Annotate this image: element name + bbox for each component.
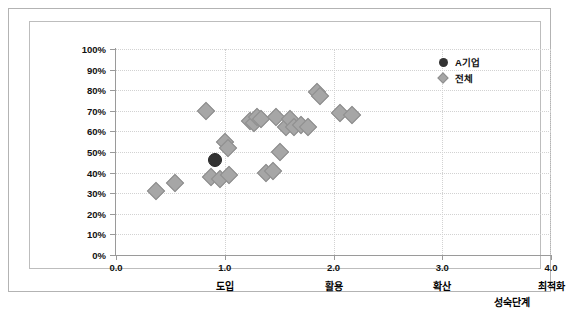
x-stage-label: 활용	[304, 278, 364, 293]
y-tick-label: 50%	[62, 147, 106, 158]
legend-circle-marker-icon	[434, 58, 452, 67]
x-tick-mark	[551, 255, 552, 260]
legend-label-a-company: A기업	[452, 55, 480, 69]
y-tick-mark	[110, 193, 115, 194]
x-tick-label: 1.0	[195, 262, 255, 273]
x-tick-mark	[334, 255, 335, 260]
y-tick-label: 80%	[62, 85, 106, 96]
x-tick-mark	[225, 255, 226, 260]
x-tick-mark	[116, 255, 117, 260]
legend-label-all: 전체	[452, 71, 473, 85]
x-tick-label: 2.0	[304, 262, 364, 273]
y-tick-mark	[110, 255, 115, 256]
data-point-a-company	[208, 153, 222, 167]
y-tick-mark	[110, 49, 115, 50]
y-tick-mark	[110, 234, 115, 235]
figure-outer-border: 준 비 도 0%10%20%30%40%50%60%70%80%90%100% …	[8, 8, 551, 292]
y-tick-label: 30%	[62, 188, 106, 199]
legend-diamond-marker-icon	[434, 74, 452, 82]
gridline-vertical	[334, 49, 335, 255]
x-stage-label: 확산	[412, 278, 472, 293]
y-tick-mark	[110, 152, 115, 153]
y-tick-mark	[110, 131, 115, 132]
legend-item-all: 전체	[434, 71, 519, 85]
y-axis-line	[115, 48, 116, 256]
y-tick-mark	[110, 111, 115, 112]
y-tick-label: 40%	[62, 167, 106, 178]
y-tick-label: 70%	[62, 105, 106, 116]
x-stage-label: 도입	[195, 278, 255, 293]
y-tick-label: 60%	[62, 126, 106, 137]
y-tick-label: 90%	[62, 64, 106, 75]
x-tick-label: 4.0	[521, 262, 570, 273]
y-tick-mark	[110, 214, 115, 215]
chart-legend: A기업 전체	[434, 55, 519, 87]
chart-plot-frame: 0%10%20%30%40%50%60%70%80%90%100% 0.01.0…	[29, 21, 541, 269]
x-tick-label: 0.0	[86, 262, 146, 273]
y-tick-mark	[110, 90, 115, 91]
y-tick-mark	[110, 173, 115, 174]
y-tick-mark	[110, 70, 115, 71]
legend-item-a-company: A기업	[434, 55, 519, 69]
x-tick-label: 3.0	[412, 262, 472, 273]
y-tick-label: 100%	[62, 44, 106, 55]
y-tick-label: 0%	[62, 250, 106, 261]
y-tick-label: 20%	[62, 208, 106, 219]
x-axis-title: 성숙단계	[494, 294, 530, 309]
x-tick-mark	[442, 255, 443, 260]
y-tick-label: 10%	[62, 229, 106, 240]
x-stage-label: 최적화	[521, 278, 570, 293]
